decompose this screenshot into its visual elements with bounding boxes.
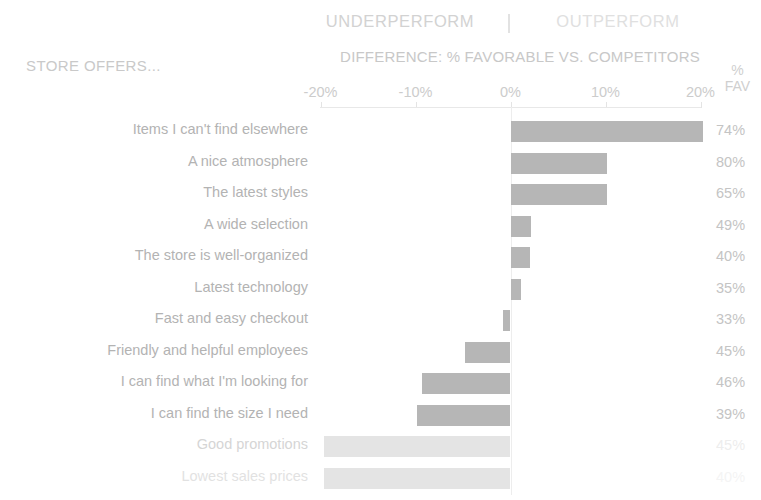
category-label: A nice atmosphere	[188, 153, 308, 169]
category-label: The store is well-organized	[135, 247, 308, 263]
chart-bar[interactable]	[503, 310, 511, 331]
chart-row[interactable]: I can find what I'm looking for46%	[0, 369, 761, 401]
category-label: A wide selection	[204, 216, 308, 232]
chart-bar[interactable]	[511, 121, 704, 142]
fav-value-label: 33%	[716, 311, 761, 327]
chart-row[interactable]: Latest technology35%	[0, 275, 761, 307]
chart-row[interactable]: Fast and easy checkout33%	[0, 306, 761, 338]
chart-row[interactable]: A nice atmosphere80%	[0, 149, 761, 181]
chart-bar[interactable]	[511, 184, 608, 205]
chart-row[interactable]: A wide selection49%	[0, 212, 761, 244]
fav-value-label: 40%	[716, 248, 761, 264]
chart-bar[interactable]	[511, 216, 532, 237]
chart-row[interactable]: Items I can't find elsewhere74%	[0, 117, 761, 149]
category-label: Friendly and helpful employees	[107, 342, 308, 358]
chart-bar[interactable]	[422, 373, 510, 394]
chart-row[interactable]: Good promotions45%	[0, 432, 761, 464]
category-label: Good promotions	[197, 436, 308, 452]
chart-bar[interactable]	[417, 405, 510, 426]
x-axis-tick-label: -10%	[381, 84, 451, 100]
category-label: I can find what I'm looking for	[121, 373, 308, 389]
x-axis-tick-label: 10%	[571, 84, 641, 100]
fav-value-label: 80%	[716, 154, 761, 170]
x-axis-tick-label: -20%	[286, 84, 356, 100]
chart-bar[interactable]	[324, 436, 510, 457]
chart-bar[interactable]	[511, 279, 521, 300]
x-axis-tick-label: 20%	[666, 84, 736, 100]
fav-value-label: 35%	[716, 280, 761, 296]
category-label: Fast and easy checkout	[155, 310, 308, 326]
chart-bar[interactable]	[511, 247, 530, 268]
fav-value-label: 49%	[716, 217, 761, 233]
fav-value-label: 74%	[716, 122, 761, 138]
category-label: Latest technology	[194, 279, 308, 295]
fav-value-label: 39%	[716, 406, 761, 422]
category-label: Items I can't find elsewhere	[133, 121, 308, 137]
chart-row[interactable]: Friendly and helpful employees45%	[0, 338, 761, 370]
chart-bar[interactable]	[511, 153, 608, 174]
category-label: The latest styles	[203, 184, 308, 200]
fav-value-label: 65%	[716, 185, 761, 201]
category-label: Lowest sales prices	[181, 468, 308, 484]
chart-row[interactable]: The latest styles65%	[0, 180, 761, 212]
chart-row[interactable]: Lowest sales prices40%	[0, 464, 761, 496]
x-axis-tick-label: 0%	[476, 84, 546, 100]
plot-area: -20%-10%0%10%20%Items I can't find elsew…	[0, 0, 761, 500]
category-label: I can find the size I need	[151, 405, 308, 421]
chart-bar[interactable]	[324, 468, 510, 489]
chart-row[interactable]: I can find the size I need39%	[0, 401, 761, 433]
fav-value-label: 45%	[716, 343, 761, 359]
chart-row[interactable]: The store is well-organized40%	[0, 243, 761, 275]
chart-bar[interactable]	[465, 342, 511, 363]
fav-value-label: 40%	[716, 469, 761, 485]
chart-root: UNDERPERFORM OUTPERFORM DIFFERENCE: % FA…	[0, 0, 761, 500]
fav-value-label: 46%	[716, 374, 761, 390]
fav-value-label: 45%	[716, 437, 761, 453]
